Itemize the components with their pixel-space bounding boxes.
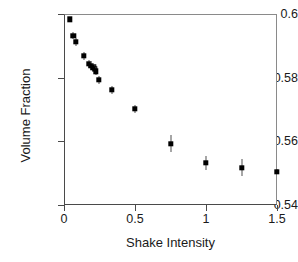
data-point [203,160,208,165]
data-point [73,39,78,44]
data-points-layer [0,0,298,262]
y-axis-title: Volume Fraction [19,41,32,191]
data-point [67,17,72,22]
data-point [96,77,101,82]
data-point [109,87,114,92]
data-point [168,141,173,146]
x-axis-title: Shake Intensity [64,236,277,249]
chart-figure: 0.6 0.58 0.56 0.54 0 0.5 1 1.5 Shake Int… [0,0,298,262]
data-point [274,169,279,174]
data-point [132,106,137,111]
data-point [81,53,86,58]
data-point [93,69,98,74]
data-point [239,165,244,170]
